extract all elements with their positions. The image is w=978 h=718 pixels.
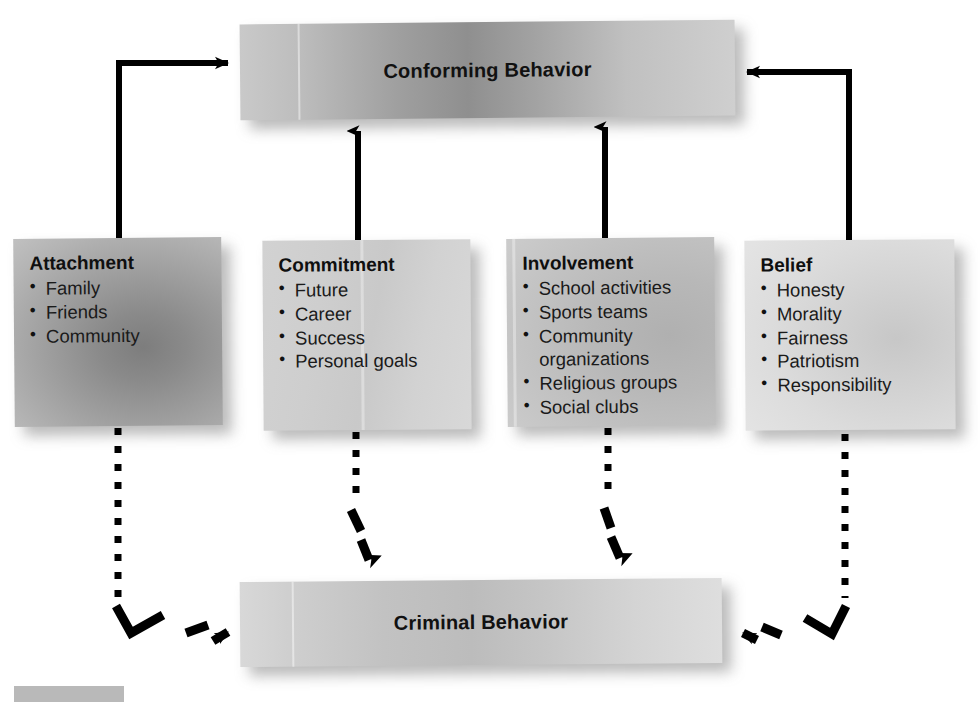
connector-belief-to-conforming-behavior xyxy=(747,72,849,240)
list-item: Personal goals xyxy=(279,349,461,374)
list-item: Religious groups xyxy=(523,370,705,395)
list-item: Social clubs xyxy=(524,394,706,419)
list-item: Morality xyxy=(761,301,945,326)
conforming-behavior-label: Conforming Behavior xyxy=(383,58,591,83)
commitment-content: Commitment Future Career Success Persona… xyxy=(262,239,471,384)
footer-color-swatch xyxy=(14,686,124,702)
conforming-behavior-node[interactable]: Conforming Behavior xyxy=(240,20,736,121)
list-item: Career xyxy=(279,301,461,326)
list-item: Family xyxy=(30,275,212,300)
list-item: Community xyxy=(30,323,212,348)
list-item: Success xyxy=(279,325,461,350)
commitment-item-list: Future Career Success Personal goals xyxy=(279,277,462,374)
conforming-behavior-content: Conforming Behavior xyxy=(240,20,736,121)
belief-item-list: Honesty Morality Fairness Patriotism Res… xyxy=(761,277,946,398)
criminal-behavior-node[interactable]: Criminal Behavior xyxy=(240,578,723,667)
attachment-title: Attachment xyxy=(29,251,211,274)
list-item: Fairness xyxy=(761,325,945,350)
attachment-item-list: Family Friends Community xyxy=(30,275,213,348)
belief-content: Belief Honesty Morality Fairness Patriot… xyxy=(744,239,955,408)
connector-commitment-to-criminal-behavior xyxy=(351,432,369,560)
criminal-behavior-content: Criminal Behavior xyxy=(240,578,723,667)
involvement-content: Involvement School activities Sports tea… xyxy=(506,237,716,430)
list-item: Friends xyxy=(30,299,212,324)
belief-title: Belief xyxy=(760,253,944,276)
list-item: Honesty xyxy=(761,277,945,302)
connector-attachment-to-criminal-behavior xyxy=(116,428,228,641)
list-item: Responsibility xyxy=(761,373,945,398)
connector-involvement-to-criminal-behavior xyxy=(604,428,620,558)
connector-attachment-to-conforming-behavior xyxy=(119,63,228,238)
bond-box-commitment[interactable]: Commitment Future Career Success Persona… xyxy=(262,239,471,430)
involvement-item-list: School activities Sports teams Community… xyxy=(523,275,706,420)
commitment-title: Commitment xyxy=(278,253,460,276)
list-item: Future xyxy=(279,277,461,302)
list-item: Patriotism xyxy=(761,349,945,374)
bond-box-involvement[interactable]: Involvement School activities Sports tea… xyxy=(506,237,716,427)
list-item: School activities xyxy=(523,275,705,300)
list-item: Community organizations xyxy=(523,323,705,372)
bond-box-attachment[interactable]: Attachment Family Friends Community xyxy=(13,237,223,427)
diagram-canvas: Conforming Behavior Attachment Family Fr… xyxy=(0,0,978,718)
bond-box-belief[interactable]: Belief Honesty Morality Fairness Patriot… xyxy=(744,239,955,430)
attachment-content: Attachment Family Friends Community xyxy=(13,237,222,358)
involvement-title: Involvement xyxy=(522,251,704,274)
connector-belief-to-criminal-behavior xyxy=(743,434,846,640)
list-item: Sports teams xyxy=(523,299,705,324)
criminal-behavior-label: Criminal Behavior xyxy=(394,610,569,635)
